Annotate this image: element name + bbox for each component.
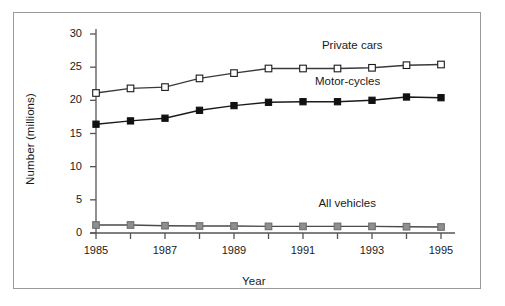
data-point-marker <box>231 223 238 230</box>
data-point-marker <box>300 65 307 72</box>
data-point-marker <box>93 90 100 97</box>
y-tick-label: 30 <box>56 27 82 39</box>
data-point-marker <box>231 103 237 109</box>
x-tick-label: 1985 <box>74 244 118 256</box>
data-point-marker <box>127 118 133 124</box>
y-tick-label: 25 <box>56 60 82 72</box>
data-point-marker <box>300 99 306 105</box>
y-tick-label: 20 <box>56 93 82 105</box>
data-point-marker <box>265 65 272 72</box>
x-tick-label: 1989 <box>212 244 256 256</box>
data-point-marker <box>196 223 203 230</box>
data-point-marker <box>162 115 168 121</box>
y-tick-label: 5 <box>56 193 82 205</box>
x-tick-label: 1993 <box>350 244 394 256</box>
data-point-marker <box>265 99 271 105</box>
data-point-marker <box>334 65 341 72</box>
x-axis-title: Year <box>242 275 266 287</box>
data-point-marker <box>196 75 203 82</box>
data-point-marker <box>93 121 99 127</box>
y-axis-title: Number (millions) <box>24 93 36 185</box>
chart-frame-border: Number (millions) Year 051015202530 1985… <box>13 12 481 289</box>
data-point-marker <box>162 84 169 91</box>
y-tick-label: 10 <box>56 160 82 172</box>
y-tick-label: 0 <box>56 226 82 238</box>
x-tick-label: 1995 <box>419 244 463 256</box>
data-point-marker <box>231 70 238 77</box>
data-point-marker <box>369 65 376 72</box>
data-point-marker <box>438 61 445 68</box>
data-point-marker <box>127 85 134 92</box>
data-point-marker <box>334 99 340 105</box>
data-point-marker <box>162 222 169 229</box>
data-point-marker <box>334 223 341 230</box>
series-label: Motor-cycles <box>315 75 380 87</box>
y-tick-label: 15 <box>56 127 82 139</box>
data-point-marker <box>196 107 202 113</box>
x-tick-label: 1991 <box>281 244 325 256</box>
data-point-marker <box>369 223 376 230</box>
chart-figure: Number (millions) Year 051015202530 1985… <box>0 0 505 306</box>
data-point-marker <box>265 223 272 230</box>
data-point-marker <box>403 62 410 69</box>
series-label: Private cars <box>322 39 383 51</box>
data-point-marker <box>369 97 375 103</box>
data-point-marker <box>300 223 307 230</box>
x-tick-label: 1987 <box>143 244 187 256</box>
data-point-marker <box>403 94 409 100</box>
data-point-marker <box>438 224 445 231</box>
data-point-marker <box>438 95 444 101</box>
data-point-marker <box>403 223 410 230</box>
series-label: All vehicles <box>318 197 376 209</box>
data-point-marker <box>127 222 134 229</box>
data-point-marker <box>93 222 100 229</box>
